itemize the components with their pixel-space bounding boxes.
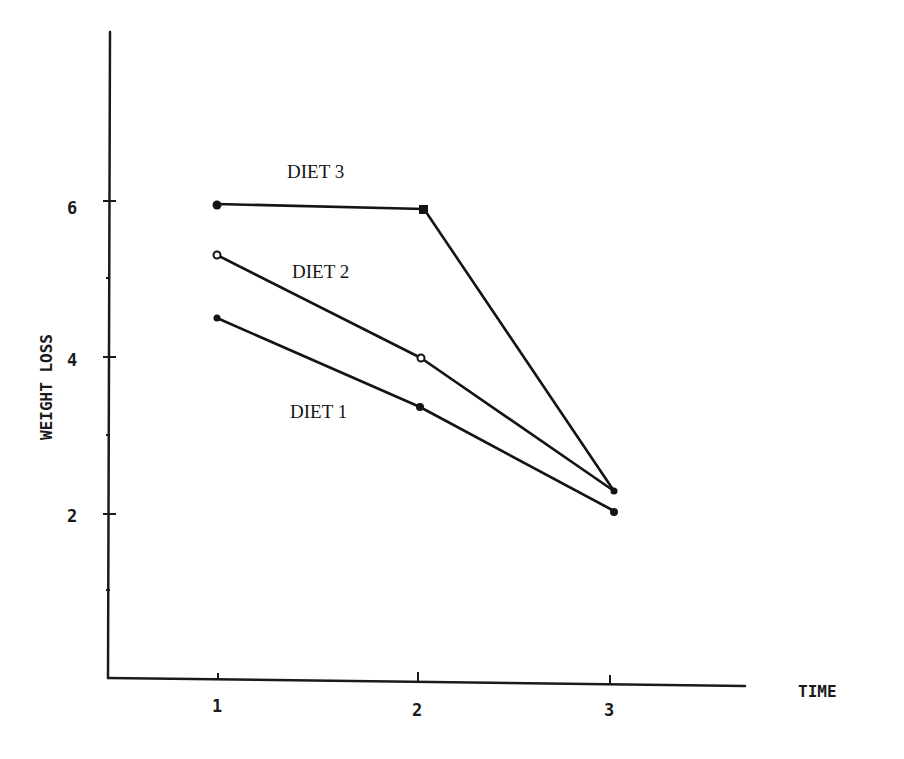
x-axis [108,678,745,686]
y-tick-labels: 6 4 2 [67,198,77,526]
y-tick-label: 6 [67,198,77,218]
series-label-diet-1: DIET 1 [290,401,347,422]
y-tick-label: 2 [67,506,77,526]
x-tick-label: 2 [412,700,422,720]
y-tick-label: 4 [67,350,77,370]
line-chart: 6 4 2 1 2 3 TIME WEIGHT LOSS DIET 3 DIET… [0,0,904,759]
series-label-diet-3: DIET 3 [287,161,344,182]
x-tick-label: 3 [604,700,614,720]
series-label-diet-2: DIET 2 [292,261,349,282]
x-tick-labels: 1 2 3 [212,696,614,720]
x-tick-label: 1 [212,696,222,716]
series-diet-2: DIET 2 [214,252,615,492]
y-axis-title: WEIGHT LOSS [37,334,56,440]
series-diet-1: DIET 1 [214,315,619,517]
x-axis-title: TIME [798,682,837,701]
series-diet-3: DIET 3 [213,161,618,495]
y-axis [108,32,110,678]
